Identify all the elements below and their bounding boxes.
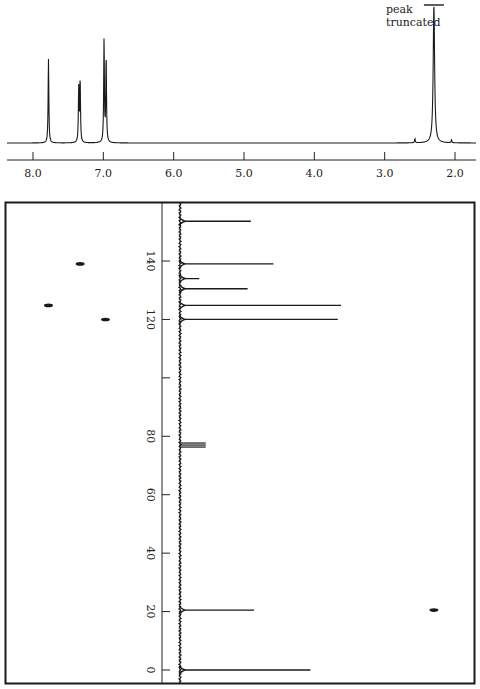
proton-tick-label: 8.0	[24, 167, 42, 180]
carbon-peak	[179, 301, 341, 309]
proton-tick-label: 7.0	[95, 167, 113, 180]
proton-tick-label: 4.0	[306, 167, 324, 180]
carbon-peak	[179, 275, 199, 283]
carbon-peak	[179, 285, 248, 293]
cross-peak	[101, 318, 110, 322]
carbon-tick-label: 40	[144, 546, 157, 560]
carbon-axis-ticks: 020406080120140	[144, 251, 170, 674]
carbon-peak	[179, 666, 310, 674]
proton-tick-label: 2.0	[446, 167, 464, 180]
correlation-plot-frame	[6, 203, 475, 684]
carbon-peak	[179, 606, 254, 614]
proton-tick-label: 3.0	[376, 167, 394, 180]
carbon-spectrum	[179, 203, 341, 683]
carbon-tick-label: 120	[144, 309, 157, 330]
carbon-tick-label: 60	[144, 488, 157, 502]
carbon-tick-label: 20	[144, 605, 157, 619]
proton-tick-label: 6.0	[165, 167, 183, 180]
carbon-peak	[179, 217, 251, 225]
cross-peak	[429, 608, 438, 612]
carbon-tick-label: 140	[144, 251, 157, 272]
peak-truncated-label-line1: peak	[386, 3, 413, 16]
peak-truncated-label-line2: truncated	[386, 16, 441, 29]
carbon-peak	[179, 315, 338, 323]
carbon-peak	[179, 260, 273, 268]
cross-peak	[76, 262, 85, 266]
proton-tick-label: 5.0	[235, 167, 253, 180]
carbon-tick-label: 0	[144, 667, 157, 674]
nmr-figure: 8.07.06.05.04.03.02.0 peak truncated 020…	[0, 0, 480, 689]
proton-axis: 8.07.06.05.04.03.02.0	[7, 152, 476, 180]
carbon-tick-label: 80	[144, 429, 157, 443]
cross-peaks	[44, 262, 438, 612]
cross-peak	[44, 304, 53, 308]
